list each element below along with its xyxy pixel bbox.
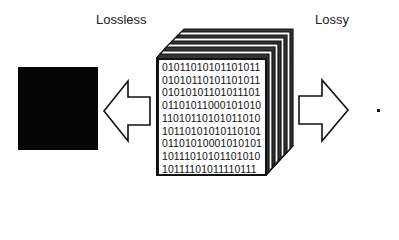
arrow-right-icon <box>299 80 348 141</box>
binary-row: 01011010101101011 <box>162 62 262 75</box>
binary-row: 01010110101101011 <box>162 75 262 88</box>
binary-row: 10110101010110101 <box>162 126 262 139</box>
binary-row: 10111010101101010 <box>162 151 262 164</box>
binary-row: 01010101101011101 <box>162 87 262 100</box>
lossy-output-dot <box>377 109 380 112</box>
binary-row: 01101010001010101 <box>162 138 262 151</box>
binary-row: 11010110101011010 <box>162 113 262 126</box>
binary-row: 10111101011110111 <box>162 164 262 177</box>
binary-row: 01101011000101010 <box>162 100 262 113</box>
arrow-left-icon <box>104 81 150 141</box>
front-binary-page: 01011010101101011 01010110101101011 0101… <box>157 58 267 176</box>
